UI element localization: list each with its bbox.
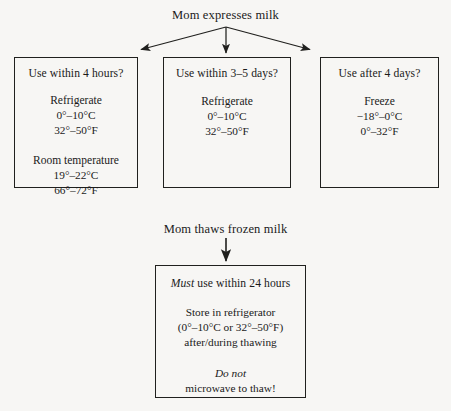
thaw-storage-line-3: after/during thawing [156,335,305,350]
branch-box-within-3-5-days: Use within 3–5 days? Refrigerate 0°–10°C… [163,57,291,188]
arrow-to-right-box [226,27,310,50]
thaw-title-rest: use within 24 hours [194,277,290,290]
group-label: Room temperature [15,153,137,168]
temp-fahrenheit: 32°–50°F [164,124,290,139]
temp-fahrenheit: 66°–72°F [15,183,137,198]
branch-title: Use within 4 hours? [15,67,137,80]
thaw-storage-temperatures: (0°–10°C or 32°–50°F) [156,320,305,335]
branch-group-refrigerate: Refrigerate 0°–10°C 32°–50°F [164,94,290,139]
group-label: Refrigerate [164,94,290,109]
branch-group-freeze: Freeze −18°–0°C 0°–32°F [321,94,438,139]
group-label: Freeze [321,94,438,109]
temp-celsius: 0°–10°C [164,109,290,124]
temp-celsius: 19°–22°C [15,168,137,183]
temp-fahrenheit: 32°–50°F [15,123,137,138]
thaw-warning-group: Do not microwave to thaw! [156,366,305,396]
thaw-title: Must use within 24 hours [156,277,305,290]
temp-fahrenheit: 0°–32°F [321,124,438,139]
temp-celsius: 0°–10°C [15,108,137,123]
temp-celsius: −18°–0°C [321,109,438,124]
thaw-title-emphasis: Must [171,277,195,290]
thaw-storage-group: Store in refrigerator (0°–10°C or 32°–50… [156,305,305,350]
flowchart-thaw-heading: Mom thaws frozen milk [0,222,451,237]
flowchart-top-heading: Mom expresses milk [0,8,451,23]
group-label: Refrigerate [15,93,137,108]
thaw-warning-text: microwave to thaw! [156,381,305,396]
milk-storage-flowchart: Mom expresses milk Use within 4 hours? R… [0,0,451,411]
branch-box-within-4-hours: Use within 4 hours? Refrigerate 0°–10°C … [14,57,138,188]
branch-title: Use within 3–5 days? [164,67,290,80]
branch-group-room-temperature: Room temperature 19°–22°C 66°–72°F [15,153,137,198]
thaw-instruction-box: Must use within 24 hours Store in refrig… [155,265,306,398]
thaw-warning-emphasis: Do not [156,366,305,381]
branch-group-refrigerate: Refrigerate 0°–10°C 32°–50°F [15,93,137,138]
thaw-storage-line-1: Store in refrigerator [156,305,305,320]
arrow-to-left-box [141,27,226,50]
branch-title: Use after 4 days? [321,67,438,80]
branch-box-after-4-days: Use after 4 days? Freeze −18°–0°C 0°–32°… [320,57,439,188]
